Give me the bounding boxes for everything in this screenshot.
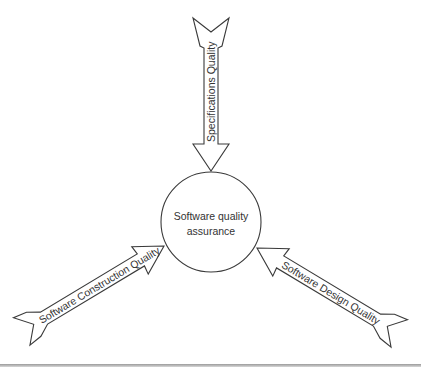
- arrow-label-right: Software Design Quality: [280, 258, 383, 327]
- center-node: Software quality assurance: [161, 172, 261, 272]
- arrow-label-top: Specifications Quality: [205, 41, 217, 142]
- arrow-specifications-quality: Specifications Quality: [193, 18, 229, 171]
- center-label-line1: Software quality: [174, 210, 249, 222]
- bottom-divider: [0, 364, 421, 367]
- arrow-software-construction-quality: Software Construction Quality: [13, 232, 172, 345]
- center-circle: [161, 172, 261, 272]
- quality-diagram: Specifications Quality Software Construc…: [0, 0, 421, 369]
- arrow-label-left: Software Construction Quality: [37, 244, 163, 326]
- arrow-software-design-quality: Software Design Quality: [249, 234, 408, 347]
- center-label-line2: assurance: [187, 225, 236, 237]
